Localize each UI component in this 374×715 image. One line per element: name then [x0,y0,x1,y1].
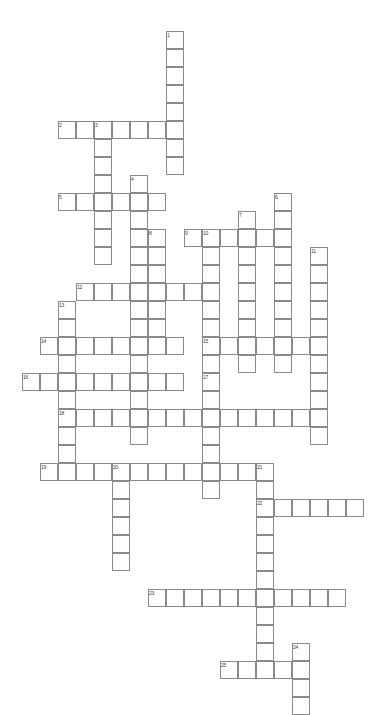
crossword-cell[interactable] [58,409,76,427]
crossword-cell[interactable] [310,247,328,265]
crossword-cell[interactable] [202,319,220,337]
crossword-cell[interactable] [112,373,130,391]
crossword-cell[interactable] [202,463,220,481]
crossword-cell[interactable] [40,337,58,355]
crossword-cell[interactable] [148,373,166,391]
crossword-cell[interactable] [166,31,184,49]
crossword-cell[interactable] [112,193,130,211]
crossword-cell[interactable] [148,247,166,265]
crossword-cell[interactable] [256,625,274,643]
crossword-cell[interactable] [166,409,184,427]
crossword-cell[interactable] [166,85,184,103]
crossword-cell[interactable] [94,175,112,193]
crossword-cell[interactable] [274,499,292,517]
crossword-cell[interactable] [184,463,202,481]
crossword-cell[interactable] [58,463,76,481]
crossword-cell[interactable] [94,337,112,355]
crossword-cell[interactable] [256,643,274,661]
crossword-cell[interactable] [76,373,94,391]
crossword-cell[interactable] [58,121,76,139]
crossword-cell[interactable] [130,373,148,391]
crossword-cell[interactable] [184,409,202,427]
crossword-cell[interactable] [148,589,166,607]
crossword-cell[interactable] [58,445,76,463]
crossword-cell[interactable] [112,553,130,571]
crossword-cell[interactable] [238,661,256,679]
crossword-cell[interactable] [184,589,202,607]
crossword-cell[interactable] [76,283,94,301]
crossword-cell[interactable] [58,373,76,391]
crossword-cell[interactable] [202,265,220,283]
crossword-cell[interactable] [256,553,274,571]
crossword-cell[interactable] [292,697,310,715]
crossword-cell[interactable] [238,265,256,283]
crossword-cell[interactable] [256,607,274,625]
crossword-cell[interactable] [130,409,148,427]
crossword-cell[interactable] [274,661,292,679]
crossword-cell[interactable] [202,427,220,445]
crossword-cell[interactable] [220,463,238,481]
crossword-cell[interactable] [94,193,112,211]
crossword-cell[interactable] [94,157,112,175]
crossword-cell[interactable] [130,355,148,373]
crossword-cell[interactable] [310,391,328,409]
crossword-cell[interactable] [166,49,184,67]
crossword-cell[interactable] [256,337,274,355]
crossword-cell[interactable] [202,301,220,319]
crossword-cell[interactable] [166,121,184,139]
crossword-cell[interactable] [166,157,184,175]
crossword-cell[interactable] [256,229,274,247]
crossword-cell[interactable] [166,67,184,85]
crossword-cell[interactable] [310,355,328,373]
crossword-cell[interactable] [256,661,274,679]
crossword-cell[interactable] [40,463,58,481]
crossword-cell[interactable] [166,103,184,121]
crossword-cell[interactable] [40,373,58,391]
crossword-cell[interactable] [292,589,310,607]
crossword-cell[interactable] [238,283,256,301]
crossword-cell[interactable] [130,211,148,229]
crossword-cell[interactable] [112,499,130,517]
crossword-cell[interactable] [148,193,166,211]
crossword-cell[interactable] [112,283,130,301]
crossword-cell[interactable] [310,373,328,391]
crossword-cell[interactable] [148,301,166,319]
crossword-cell[interactable] [310,301,328,319]
crossword-cell[interactable] [94,283,112,301]
crossword-cell[interactable] [220,661,238,679]
crossword-cell[interactable] [130,463,148,481]
crossword-cell[interactable] [112,409,130,427]
crossword-cell[interactable] [274,337,292,355]
crossword-cell[interactable] [112,535,130,553]
crossword-cell[interactable] [328,589,346,607]
crossword-cell[interactable] [256,499,274,517]
crossword-cell[interactable] [184,283,202,301]
crossword-cell[interactable] [148,337,166,355]
crossword-cell[interactable] [238,229,256,247]
crossword-cell[interactable] [256,535,274,553]
crossword-cell[interactable] [112,121,130,139]
crossword-cell[interactable] [274,319,292,337]
crossword-cell[interactable] [220,337,238,355]
crossword-cell[interactable] [292,643,310,661]
crossword-cell[interactable] [292,409,310,427]
crossword-cell[interactable] [166,139,184,157]
crossword-cell[interactable] [130,229,148,247]
crossword-cell[interactable] [94,247,112,265]
crossword-cell[interactable] [58,193,76,211]
crossword-cell[interactable] [148,229,166,247]
crossword-cell[interactable] [166,283,184,301]
crossword-cell[interactable] [274,247,292,265]
crossword-cell[interactable] [166,373,184,391]
crossword-cell[interactable] [112,337,130,355]
crossword-cell[interactable] [130,337,148,355]
crossword-cell[interactable] [148,319,166,337]
crossword-cell[interactable] [292,337,310,355]
crossword-cell[interactable] [274,229,292,247]
crossword-cell[interactable] [238,319,256,337]
crossword-cell[interactable] [274,265,292,283]
crossword-cell[interactable] [238,211,256,229]
crossword-cell[interactable] [148,409,166,427]
crossword-cell[interactable] [166,337,184,355]
crossword-cell[interactable] [202,355,220,373]
